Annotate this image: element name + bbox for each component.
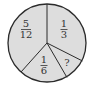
fraction-numerator: 5	[23, 18, 29, 29]
slice-label-one-third: 1 3	[61, 18, 68, 40]
fraction-denominator: 12	[20, 29, 33, 40]
fraction-denominator: 3	[61, 29, 67, 40]
slice-label-unknown: ?	[64, 57, 69, 68]
fraction-numerator: 1	[41, 54, 47, 65]
slice-label-one-sixth: 1 6	[41, 54, 48, 76]
fraction-denominator: 6	[41, 65, 47, 76]
fraction-numerator: 1	[61, 18, 67, 29]
pie-chart: 5 12 1 3 1 6 ?	[0, 0, 89, 88]
